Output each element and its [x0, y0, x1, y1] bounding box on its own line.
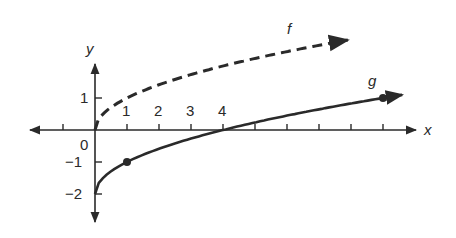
x-axis-label: x	[423, 121, 432, 138]
x-tick-label-3: 3	[186, 102, 194, 119]
curve-g-solid	[95, 95, 402, 194]
x-tick-label-4: 4	[218, 102, 226, 119]
point-g	[379, 94, 387, 102]
origin-label: 0	[80, 136, 88, 153]
f-label: f	[287, 20, 293, 37]
point-g	[123, 158, 131, 166]
y-tick-label-1: 1	[80, 89, 88, 106]
x-tick-label-1: 1	[122, 102, 130, 119]
y-tick-label-minus-1: −1	[65, 153, 82, 170]
y-tick-label-minus-2: −2	[65, 185, 82, 202]
y-axis-label: y	[85, 40, 95, 57]
x-tick-label-2: 2	[154, 102, 162, 119]
graph-of-f-and-g: x y f g 0 1 2 3 4 1 −1 −2	[0, 0, 456, 238]
g-label: g	[368, 72, 377, 89]
